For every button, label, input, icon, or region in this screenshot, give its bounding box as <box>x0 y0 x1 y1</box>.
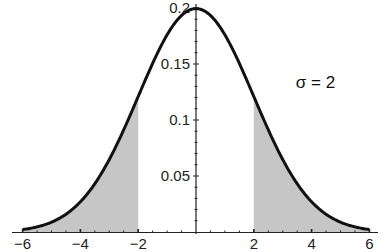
y-tick-label: 0.1 <box>169 111 190 128</box>
shaded-region-1 <box>254 97 370 233</box>
x-tick-labels: −6−4−2246 <box>14 235 374 252</box>
y-tick-labels: 0.050.10.150.2 <box>161 0 190 184</box>
y-tick-label: 0.05 <box>161 167 190 184</box>
y-tick-label: 0.15 <box>161 55 190 72</box>
x-tick-label: 6 <box>365 235 373 252</box>
y-tick-label: 0.2 <box>169 0 190 16</box>
x-tick-label: −6 <box>14 235 31 252</box>
sigma-annotation: σ = 2 <box>296 73 335 92</box>
x-tick-label: 4 <box>307 235 315 252</box>
x-tick-label: −4 <box>72 235 89 252</box>
x-tick-label: 2 <box>250 235 258 252</box>
axes <box>12 4 378 234</box>
shaded-region-0 <box>23 97 139 233</box>
normal-distribution-chart: −6−4−2246 0.050.10.150.2 σ = 2 <box>0 0 387 252</box>
x-tick-label: −2 <box>130 235 147 252</box>
